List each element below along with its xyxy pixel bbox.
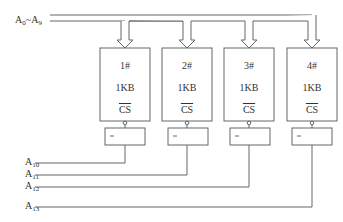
chip-4-size: 1KB [287,82,337,93]
chip-1-cs: CS [100,104,150,115]
chip-4-cs: CS [287,104,337,115]
select-line-a13: A13 [25,201,39,214]
chip-3-size: 1KB [224,82,274,93]
chip-3-cs: CS [224,104,274,115]
address-bus-label: A0~A9 [15,15,42,28]
chip-2-size: 1KB [162,82,212,93]
chip-4-id: 4# [287,60,337,71]
chip-2-id: 2# [162,60,212,71]
chip-1-size: 1KB [100,82,150,93]
chip-2-cs: CS [162,104,212,115]
chip-3-id: 3# [224,60,274,71]
select-line-a12: A12 [25,181,39,194]
chip-1-id: 1# [100,60,150,71]
